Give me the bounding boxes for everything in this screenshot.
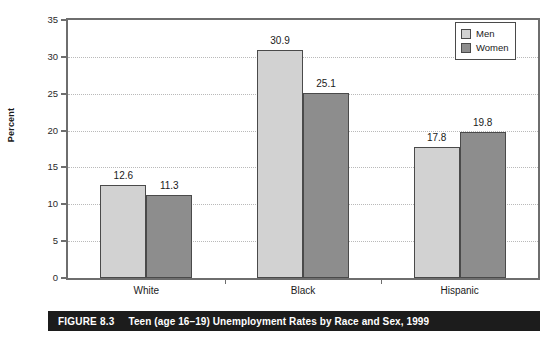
y-tick-label: 35 — [32, 15, 58, 25]
y-tick-label: 15 — [32, 162, 58, 172]
figure-container: Percent 05101520253035 12.611.330.925.11… — [0, 0, 558, 342]
x-tick-mark — [225, 280, 226, 284]
y-tick-label: 10 — [32, 199, 58, 209]
bar-black-men — [257, 50, 303, 278]
bar-value-label: 30.9 — [252, 36, 308, 46]
figure-number: FIGURE 8.3 — [58, 316, 114, 327]
chart-legend: Men Women — [455, 22, 516, 60]
bar-hispanic-men — [414, 147, 460, 278]
bar-value-label: 12.6 — [95, 171, 151, 181]
bar-hispanic-women — [460, 132, 506, 278]
y-tick-label: 5 — [32, 236, 58, 246]
y-tick-label: 25 — [32, 89, 58, 99]
legend-label-men: Men — [476, 29, 494, 39]
bar-value-label: 19.8 — [455, 118, 511, 128]
legend-label-women: Women — [476, 43, 509, 53]
bar-value-label: 17.8 — [409, 133, 465, 143]
figure-title: Teen (age 16–19) Unemployment Rates by R… — [128, 316, 429, 327]
x-category-label-white: White — [86, 286, 206, 296]
bar-black-women — [303, 93, 349, 278]
figure-caption-bar: FIGURE 8.3 Teen (age 16–19) Unemployment… — [48, 311, 540, 331]
y-tick-label: 30 — [32, 52, 58, 62]
legend-swatch-women-icon — [461, 43, 471, 53]
y-axis-title: Percent — [6, 108, 16, 142]
bar-value-label: 25.1 — [298, 79, 354, 89]
y-tick-label: 0 — [32, 273, 58, 283]
legend-swatch-men-icon — [461, 29, 471, 39]
x-tick-mark — [381, 280, 382, 284]
bar-value-label: 11.3 — [141, 181, 197, 191]
bar-white-women — [146, 195, 192, 278]
legend-item-men: Men — [461, 27, 509, 41]
y-tick-label: 20 — [32, 126, 58, 136]
x-category-label-black: Black — [243, 286, 363, 296]
x-category-label-hispanic: Hispanic — [400, 286, 520, 296]
bar-white-men — [100, 185, 146, 278]
legend-item-women: Women — [461, 41, 509, 55]
